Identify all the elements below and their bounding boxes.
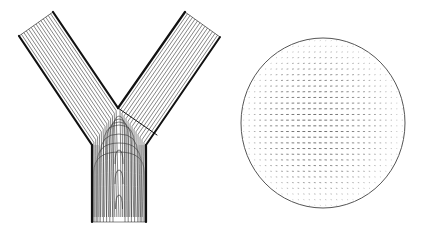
- streamline: [137, 30, 210, 217]
- right-branch-inner-wall: [118, 12, 185, 108]
- bifurcation-panel: Bifurcation streamlines: [19, 12, 220, 222]
- left-branch-inner-wall: [53, 12, 118, 108]
- streamline: [26, 31, 98, 217]
- velocity-vectors: [243, 40, 402, 205]
- streamline: [132, 25, 203, 218]
- right-branch-inlet: [185, 12, 220, 37]
- cross-section-outline: [241, 38, 405, 208]
- figure: Y-shaped bifurcation flow streamlines an…: [0, 0, 422, 233]
- streamlines: [21, 14, 217, 222]
- left-branch-inlet: [19, 12, 53, 36]
- cross-section-panel: Cross-section velocity vectors: [241, 38, 405, 208]
- streamline: [139, 32, 213, 217]
- streamline: [29, 29, 101, 217]
- figure-canvas: Bifurcation streamlines Cross-section ve…: [0, 0, 422, 233]
